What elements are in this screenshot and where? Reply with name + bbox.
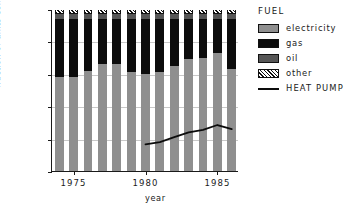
x-tick-mark <box>74 171 75 175</box>
legend-item-label: oil <box>286 53 298 63</box>
heat-pump-line-swatch <box>258 84 279 93</box>
y-axis-label: fraction of units completed (%) <box>0 0 2 88</box>
y-tick-mark <box>48 10 52 11</box>
legend-title: FUEL <box>258 6 357 16</box>
y-tick-mark <box>48 75 52 76</box>
y-tick-mark <box>48 172 52 173</box>
legend-item-gas[interactable]: gas <box>258 36 357 50</box>
legend: FUEL electricity gas oil other HEAT PUMP <box>258 6 357 96</box>
oil-swatch <box>258 54 279 63</box>
legend-item-electricity[interactable]: electricity <box>258 21 357 35</box>
stacked-bar-chart-figure: fraction of units completed (%) year 020… <box>0 0 359 205</box>
plot-clip <box>52 10 238 171</box>
legend-item-oil[interactable]: oil <box>258 51 357 65</box>
y-tick-mark <box>48 140 52 141</box>
heat-pump-line <box>52 10 238 171</box>
legend-item-label: electricity <box>286 23 336 33</box>
x-tick-label: 1975 <box>61 178 87 188</box>
plot-area: 020406080100 197519801985 <box>51 10 238 172</box>
legend-item-label: other <box>286 68 312 78</box>
legend-item-heat-pump[interactable]: HEAT PUMP <box>258 81 357 95</box>
electricity-swatch <box>258 24 279 33</box>
y-tick-mark <box>48 42 52 43</box>
x-tick-label: 1980 <box>132 178 158 188</box>
x-tick-mark <box>217 171 218 175</box>
x-tick-mark <box>146 171 147 175</box>
x-tick-label: 1985 <box>204 178 230 188</box>
x-axis-label: year <box>145 193 166 203</box>
legend-item-other[interactable]: other <box>258 66 357 80</box>
legend-item-label: gas <box>286 38 303 48</box>
legend-item-label: HEAT PUMP <box>286 83 344 93</box>
gas-swatch <box>258 39 279 48</box>
y-tick-mark <box>48 107 52 108</box>
other-hatch-swatch <box>258 69 279 78</box>
